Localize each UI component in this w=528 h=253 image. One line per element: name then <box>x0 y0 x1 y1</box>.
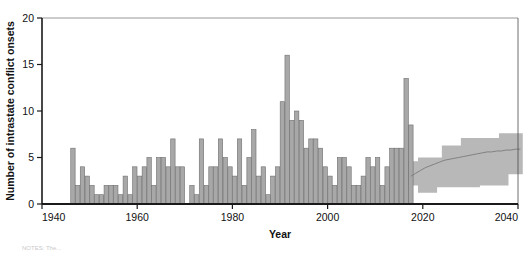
bar <box>309 139 313 204</box>
bar <box>85 176 89 204</box>
bar <box>80 167 84 204</box>
bar <box>366 158 370 205</box>
bar <box>337 158 341 205</box>
y-axis-title: Number of intrastate conflict onsets <box>4 21 16 201</box>
x-axis-tick-label: 2000 <box>316 211 340 223</box>
y-axis-tick-labels: 05101520 <box>22 12 42 210</box>
bar <box>171 139 175 204</box>
bar <box>271 176 275 204</box>
bar <box>409 125 413 204</box>
bar <box>223 158 227 205</box>
bar <box>333 185 337 204</box>
bar <box>166 167 170 204</box>
bar <box>218 139 222 204</box>
x-axis-title: Year <box>269 228 291 240</box>
bar <box>261 167 265 204</box>
bar <box>385 167 389 204</box>
bar <box>180 167 184 204</box>
bar <box>137 176 141 204</box>
x-axis-tick-label: 1940 <box>42 211 66 223</box>
bar <box>290 120 294 204</box>
bar <box>285 55 289 204</box>
bar <box>275 167 279 204</box>
bar <box>123 176 127 204</box>
bar <box>128 195 132 204</box>
x-axis-tick-label: 2020 <box>411 211 435 223</box>
bar <box>156 158 160 205</box>
bar <box>280 102 284 204</box>
bar <box>147 158 151 205</box>
bar <box>175 167 179 204</box>
bar <box>161 158 165 205</box>
x-axis-tick-label: 1980 <box>221 211 245 223</box>
bar <box>318 148 322 204</box>
bar <box>328 176 332 204</box>
figure-container: 194019601980200020202040 05101520 Year N… <box>0 0 528 253</box>
bar <box>109 185 113 204</box>
bar <box>342 158 346 205</box>
bar <box>252 130 256 204</box>
x-axis-tick-label: 2040 <box>495 211 519 223</box>
figure-note: NOTES: The... <box>22 245 62 251</box>
bar <box>304 148 308 204</box>
x-axis-tick-labels: 194019601980200020202040 <box>42 204 518 223</box>
bar <box>233 176 237 204</box>
bar <box>209 167 213 204</box>
bar <box>352 185 356 204</box>
bar <box>314 139 318 204</box>
bar <box>204 185 208 204</box>
bar <box>228 167 232 204</box>
x-axis-tick-label: 1960 <box>126 211 150 223</box>
bar <box>247 158 251 205</box>
bar <box>118 195 122 204</box>
bar <box>214 167 218 204</box>
bar <box>390 148 394 204</box>
bar <box>375 158 379 205</box>
bar <box>195 195 199 204</box>
bar <box>256 176 260 204</box>
bar <box>152 185 156 204</box>
bar <box>404 78 408 204</box>
y-axis-tick-label: 0 <box>28 198 34 210</box>
y-axis-tick-label: 10 <box>22 105 34 117</box>
bar <box>237 139 241 204</box>
intrastate-conflict-onsets-chart: 194019601980200020202040 05101520 Year N… <box>0 0 528 253</box>
bar <box>371 167 375 204</box>
bar <box>323 167 327 204</box>
bar <box>142 167 146 204</box>
bar <box>299 120 303 204</box>
bar <box>99 195 103 204</box>
bar <box>399 148 403 204</box>
bar <box>294 111 298 204</box>
bar <box>95 195 99 204</box>
bar <box>347 167 351 204</box>
y-axis-tick-label: 5 <box>28 151 34 163</box>
bar <box>361 176 365 204</box>
bar <box>76 185 80 204</box>
bar <box>90 185 94 204</box>
bar <box>242 185 246 204</box>
bar <box>133 167 137 204</box>
y-axis-tick-label: 15 <box>22 58 34 70</box>
bar <box>71 148 75 204</box>
bar <box>114 185 118 204</box>
bar <box>394 148 398 204</box>
y-axis-tick-label: 20 <box>22 12 34 24</box>
bar <box>104 185 108 204</box>
bar <box>266 195 270 204</box>
bar <box>380 185 384 204</box>
bar <box>199 139 203 204</box>
bar <box>356 185 360 204</box>
bar <box>190 185 194 204</box>
